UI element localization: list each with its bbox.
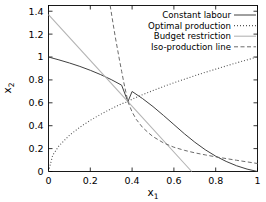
y-tick-label: 0.2 bbox=[28, 143, 43, 154]
x-tick-label: 0.8 bbox=[208, 175, 223, 186]
x-tick-label: 1 bbox=[254, 175, 260, 186]
y-tick-label: 1.2 bbox=[28, 29, 43, 40]
y-tick-label: 0.6 bbox=[28, 97, 43, 108]
legend-label: Iso-production line bbox=[151, 42, 231, 52]
x-axis-title: x1 bbox=[148, 186, 159, 201]
y-tick-label: 1 bbox=[37, 51, 43, 62]
legend-label: Budget restriction bbox=[154, 31, 231, 41]
legend-label: Constant labour bbox=[162, 10, 231, 20]
y-tick-label: 0.8 bbox=[28, 74, 43, 85]
x-axis-title-subscript: 1 bbox=[154, 192, 159, 201]
chart-legend: Constant labourOptimal productionBudget … bbox=[148, 10, 256, 52]
series-constant-labour bbox=[49, 57, 258, 171]
y-axis-title-subscript: 2 bbox=[7, 82, 16, 87]
x-tick-label: 0.6 bbox=[166, 175, 181, 186]
series-optimal-production bbox=[49, 57, 258, 171]
svg-text:x1: x1 bbox=[148, 186, 159, 201]
legend-label: Optimal production bbox=[148, 21, 231, 31]
svg-text:x2: x2 bbox=[1, 82, 16, 93]
chart-figure: 00.20.40.60.81 00.20.40.60.811.21.4 x1 x… bbox=[0, 0, 266, 202]
y-axis-tick-labels: 00.20.40.60.811.21.4 bbox=[28, 6, 43, 177]
production-plot: 00.20.40.60.81 00.20.40.60.811.21.4 x1 x… bbox=[0, 0, 266, 202]
x-tick-label: 0.2 bbox=[83, 175, 98, 186]
x-tick-label: 0.4 bbox=[125, 175, 140, 186]
y-tick-label: 0.4 bbox=[28, 120, 43, 131]
x-tick-label: 0 bbox=[45, 175, 51, 186]
y-tick-label: 1.4 bbox=[28, 6, 43, 17]
x-axis-tick-labels: 00.20.40.60.81 bbox=[45, 175, 260, 186]
y-axis-title: x2 bbox=[1, 82, 16, 93]
y-tick-label: 0 bbox=[37, 166, 43, 177]
